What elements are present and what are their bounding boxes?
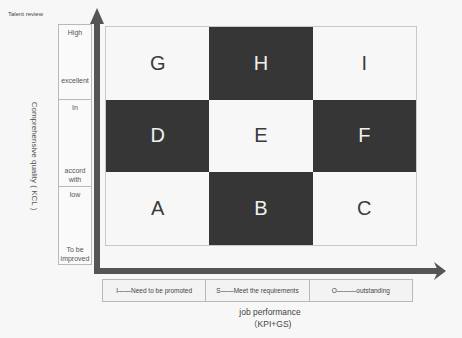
legend-item-meet-requirements: S——Meet the requirements bbox=[205, 280, 308, 301]
x-axis-arrow-icon bbox=[94, 262, 446, 280]
x-axis-label-line2: （KPI+GS) bbox=[200, 318, 340, 330]
legend-box: I——Need to be promoted S——Meet the requi… bbox=[102, 279, 413, 302]
legend-item-promoted: I——Need to be promoted bbox=[103, 280, 205, 301]
x-axis-label-line1: job performance bbox=[200, 306, 340, 318]
legend-item-outstanding: O———outstanding bbox=[309, 280, 412, 301]
y-axis-arrow-icon bbox=[90, 8, 104, 274]
x-axis-label: job performance （KPI+GS) bbox=[200, 306, 340, 330]
